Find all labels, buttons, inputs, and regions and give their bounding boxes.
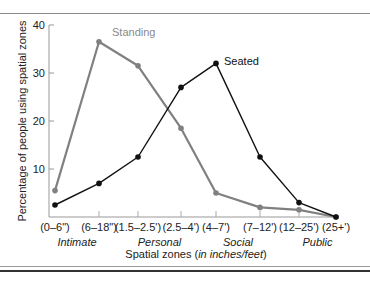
axes bbox=[49, 25, 338, 217]
data-point bbox=[135, 63, 141, 69]
x-tick-label: (7–12') bbox=[243, 221, 277, 233]
series-lines bbox=[52, 39, 339, 220]
series-standing bbox=[52, 39, 339, 220]
x-tick-label: (4–7') bbox=[202, 221, 230, 233]
y-tick-label: 20 bbox=[33, 115, 45, 127]
data-point bbox=[178, 85, 184, 91]
x-tick-label: (0–6") bbox=[40, 221, 70, 233]
zone-label-public: Public bbox=[303, 236, 333, 248]
data-point bbox=[333, 214, 339, 220]
data-point bbox=[52, 188, 58, 194]
series-line bbox=[55, 63, 336, 217]
data-point bbox=[178, 125, 184, 131]
zone-label-personal: Personal bbox=[138, 236, 182, 248]
y-tick-label: 40 bbox=[33, 19, 45, 31]
data-point bbox=[213, 61, 219, 67]
series-label-seated: Seated bbox=[224, 55, 259, 67]
series-seated bbox=[52, 61, 339, 220]
line-chart: 10203040 (0–6")(6–18")(1.5–2.5')(2.5–4')… bbox=[0, 0, 370, 284]
labels: StandingSeated bbox=[112, 26, 259, 67]
data-point bbox=[96, 39, 102, 45]
data-point bbox=[52, 202, 58, 208]
x-tick-label: (6–18") bbox=[81, 221, 117, 233]
x-tick-label: (25+') bbox=[322, 221, 350, 233]
zone-label-social: Social bbox=[223, 236, 254, 248]
y-axis-title: Percentage of people using spatial zones bbox=[16, 20, 28, 222]
y-ticks: 10203040 bbox=[33, 19, 54, 175]
zone-label-intimate: Intimate bbox=[57, 236, 96, 248]
data-point bbox=[257, 154, 263, 160]
x-axis-title: Spatial zones (in inches/feet) bbox=[125, 248, 266, 260]
data-point bbox=[257, 205, 263, 211]
data-point bbox=[96, 181, 102, 187]
y-tick-label: 30 bbox=[33, 67, 45, 79]
x-tick-label: (2.5–4') bbox=[163, 221, 200, 233]
data-point bbox=[135, 154, 141, 160]
data-point bbox=[296, 207, 302, 213]
x-tick-label: (1.5–2.5') bbox=[115, 221, 161, 233]
data-point bbox=[296, 200, 302, 206]
data-point bbox=[213, 190, 219, 196]
x-tick-label: (12–25') bbox=[279, 221, 319, 233]
y-tick-label: 10 bbox=[33, 163, 45, 175]
series-line bbox=[55, 42, 336, 217]
series-label-standing: Standing bbox=[112, 26, 155, 38]
